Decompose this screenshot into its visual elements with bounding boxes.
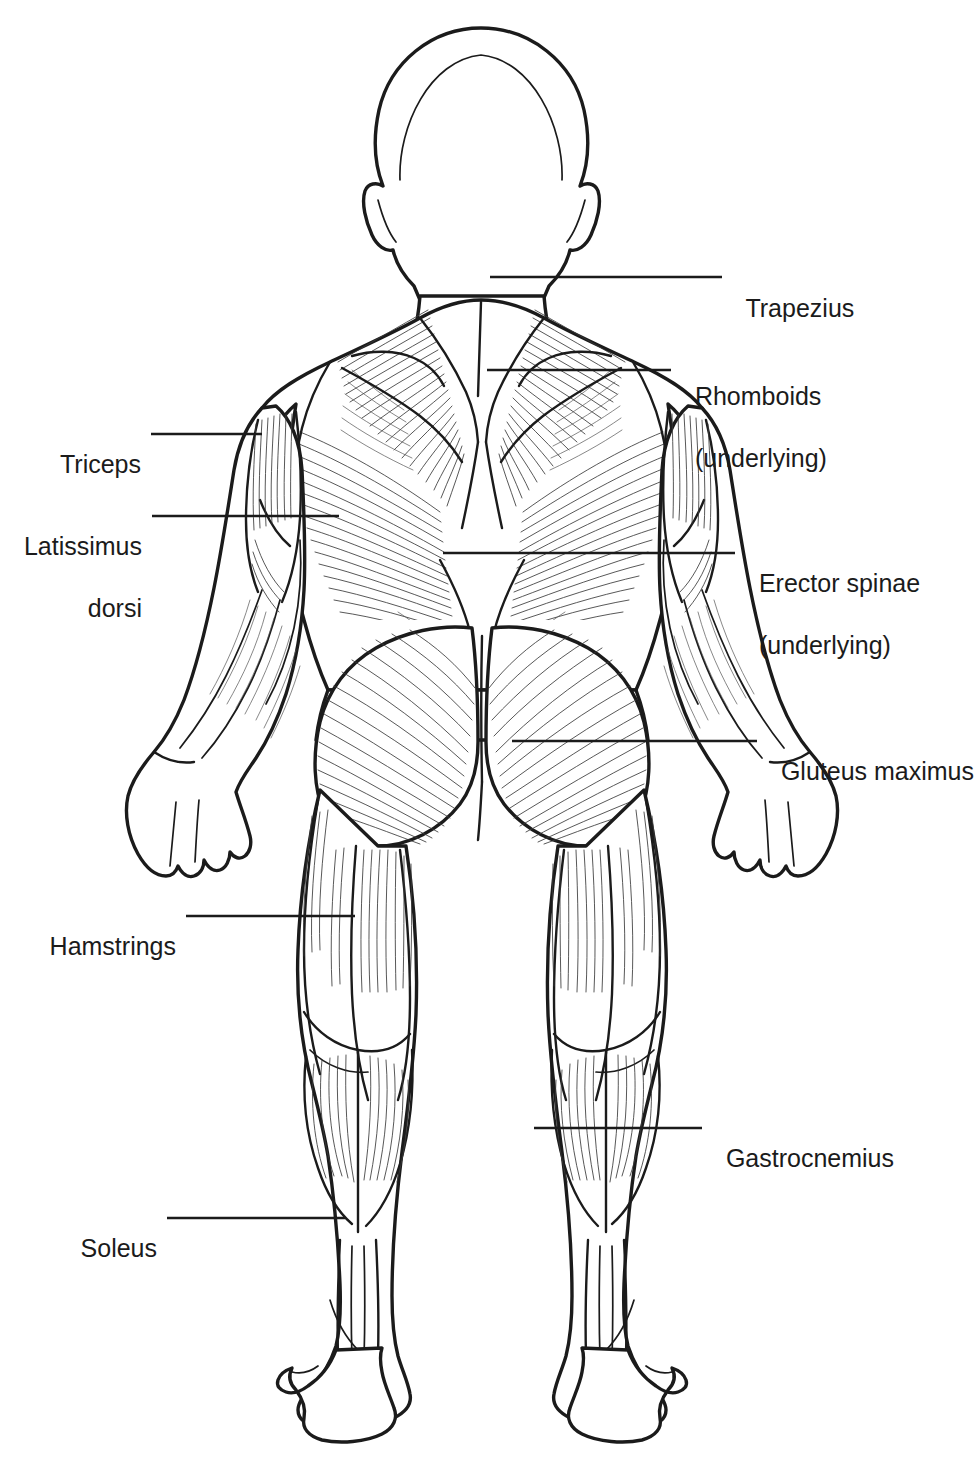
label-gluteus-maximus-line1: Gluteus maximus — [781, 757, 974, 785]
label-trapezius-line1: Trapezius — [745, 294, 854, 322]
label-gluteus-maximus: Gluteus maximus — [767, 725, 974, 787]
label-gastrocnemius-line1: Gastrocnemius — [726, 1144, 894, 1172]
label-triceps: Triceps — [0, 418, 141, 480]
label-soleus: Soleus — [0, 1202, 157, 1264]
label-rhomboids: Rhomboids (underlying) — [681, 350, 827, 474]
label-latissimus-dorsi-line2: dorsi — [88, 594, 142, 622]
label-latissimus-dorsi-line1: Latissimus — [24, 532, 142, 560]
label-erector-spinae-line1: Erector spinae — [759, 569, 920, 597]
label-rhomboids-line2: (underlying) — [695, 444, 827, 472]
label-trapezius: Trapezius — [732, 262, 854, 324]
label-triceps-line1: Triceps — [60, 450, 141, 478]
label-erector-spinae-line2: (underlying) — [759, 631, 891, 659]
label-gastrocnemius: Gastrocnemius — [712, 1112, 894, 1174]
label-latissimus-dorsi: Latissimus dorsi — [0, 500, 142, 624]
label-soleus-line1: Soleus — [81, 1234, 157, 1262]
label-erector-spinae: Erector spinae (underlying) — [745, 537, 920, 661]
label-rhomboids-line1: Rhomboids — [695, 382, 821, 410]
label-hamstrings-line1: Hamstrings — [50, 932, 176, 960]
label-hamstrings: Hamstrings — [0, 900, 176, 962]
